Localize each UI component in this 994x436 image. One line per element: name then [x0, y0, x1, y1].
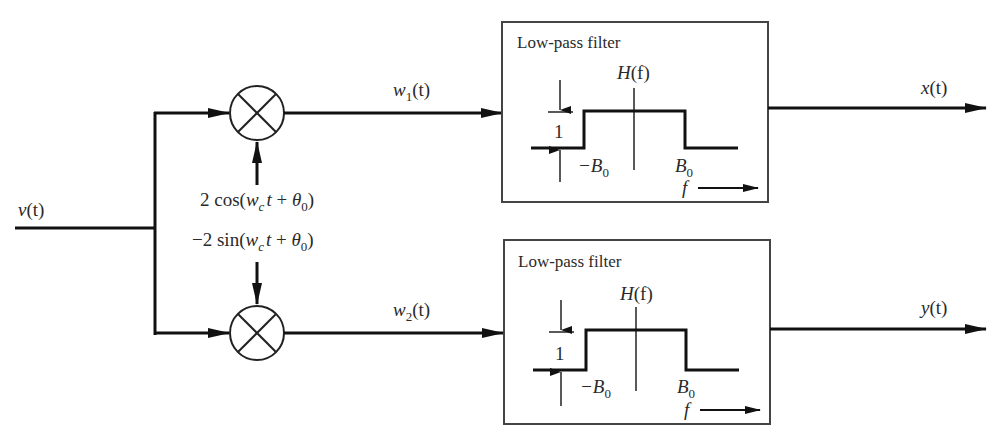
- top-low-pass-filter: Low-pass filter H(f) 1 −B0 B0 f: [502, 22, 768, 202]
- input-label: v(t): [18, 199, 44, 221]
- bottom-filter-response-label: H(f): [619, 283, 653, 305]
- bottom-multiplier: [230, 306, 284, 360]
- w2-label: w2(t): [393, 299, 430, 324]
- w1-label: w1(t): [393, 79, 430, 104]
- bottom-filter-title: Low-pass filter: [518, 252, 622, 271]
- diagram-canvas: v(t) 2 cos(wct + θ0) −2 sin(wct + θ0) w1…: [0, 0, 994, 436]
- top-filter-title: Low-pass filter: [517, 33, 621, 52]
- top-filter-amplitude: 1: [554, 121, 564, 142]
- bottom-low-pass-filter: Low-pass filter H(f) 1 −B0 B0 f: [504, 240, 770, 424]
- bottom-carrier-label: −2 sin(wct + θ0): [192, 229, 314, 254]
- top-multiplier: [230, 86, 284, 140]
- x-output-label: x(t): [920, 77, 947, 99]
- top-filter-response-label: H(f): [616, 62, 650, 84]
- bottom-filter-amplitude: 1: [555, 343, 565, 364]
- y-output-label: y(t): [919, 297, 947, 319]
- top-carrier-label: 2 cos(wct + θ0): [200, 189, 314, 214]
